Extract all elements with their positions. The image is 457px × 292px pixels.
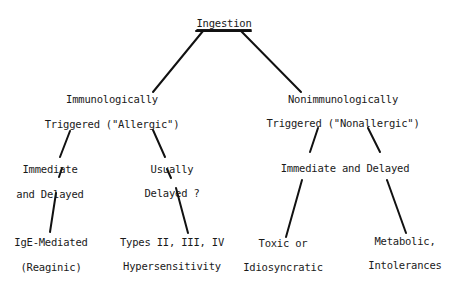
immediate-line1: Immediate xyxy=(22,163,77,175)
edge-to-toxic xyxy=(286,180,302,237)
immediate-line2: and Delayed xyxy=(16,188,83,200)
left-branch-line1: Immunologically xyxy=(66,93,158,105)
edge-root-right xyxy=(241,31,301,92)
edge-right-mid-right xyxy=(368,128,380,152)
right-branch-line2: Triggered ("Nonallergic") xyxy=(266,117,419,129)
edge-to-metabolic xyxy=(387,180,406,233)
types-label: Types II, III, IV xyxy=(120,236,224,248)
reaginic-label: (Reaginic) xyxy=(20,261,81,273)
idiosyncratic-label: Idiosyncratic xyxy=(243,261,323,273)
hypersensitivity-label: Hypersensitivity xyxy=(123,260,221,272)
usually-line2: Delayed ? xyxy=(144,187,199,199)
edge-right-mid-left xyxy=(310,128,318,152)
edge-left-immediate xyxy=(60,131,70,157)
left-branch-line2: Triggered ("Allergic") xyxy=(45,118,180,130)
ige-mediated-label: IgE-Mediated xyxy=(14,236,87,248)
edge-left-usually xyxy=(153,130,165,157)
connector-lines xyxy=(0,0,457,292)
food-reaction-tree-diagram: Ingestion Immunologically Triggered ("Al… xyxy=(0,0,457,292)
right-branch-line1: Nonimmunologically xyxy=(288,93,398,105)
intolerances-label: Intolerances xyxy=(368,259,441,271)
edge-root-left xyxy=(153,31,203,92)
metabolic-label: Metabolic, xyxy=(374,235,435,247)
usually-line1: Usually xyxy=(151,163,194,175)
right-mid-label: Immediate and Delayed xyxy=(281,162,410,174)
root-label: Ingestion xyxy=(196,17,251,29)
toxic-label: Toxic or xyxy=(259,237,308,249)
